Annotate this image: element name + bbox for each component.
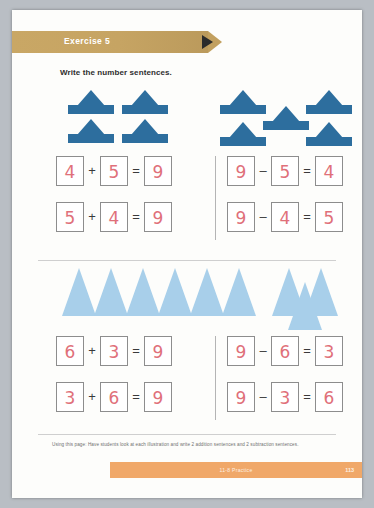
answer-box[interactable]: 5 xyxy=(56,202,84,232)
answer-box[interactable]: 9 xyxy=(144,202,172,232)
worksheet-page: Exercise 5 Write the number sentences. 4… xyxy=(12,10,362,498)
triangle-hat-icon xyxy=(222,268,256,316)
answer-box[interactable]: 9 xyxy=(227,382,255,412)
arrow-tip-icon xyxy=(202,35,213,49)
exercise-title: Exercise 5 xyxy=(64,36,110,46)
triangle-hat-icon xyxy=(288,282,322,330)
equals-sign: = xyxy=(301,336,313,366)
equals-sign: = xyxy=(130,382,142,412)
triangle-hat-icon xyxy=(62,268,96,316)
answer-box[interactable]: 3 xyxy=(100,336,128,366)
equals-sign: = xyxy=(301,156,313,186)
triangle-hat-icon xyxy=(126,268,160,316)
answer-box[interactable]: 4 xyxy=(315,156,343,186)
operator: – xyxy=(257,382,269,412)
answer-box[interactable]: 6 xyxy=(100,382,128,412)
operator: – xyxy=(257,202,269,232)
equals-sign: = xyxy=(301,202,313,232)
operator: + xyxy=(86,382,98,412)
page-footer: 11-8 Practice 113 xyxy=(110,462,362,478)
equals-sign: = xyxy=(130,202,142,232)
answer-box[interactable]: 4 xyxy=(271,202,299,232)
answer-box[interactable]: 6 xyxy=(56,336,84,366)
equals-sign: = xyxy=(130,336,142,366)
exercise-banner: Exercise 5 xyxy=(12,31,362,53)
operator: – xyxy=(257,156,269,186)
operator: + xyxy=(86,156,98,186)
footer-label: 11-8 Practice xyxy=(110,462,362,478)
sailboat-icon xyxy=(68,119,114,143)
answer-box[interactable]: 5 xyxy=(315,202,343,232)
answer-box[interactable]: 9 xyxy=(144,336,172,366)
triangle-hat-icon xyxy=(190,268,224,316)
triangle-hat-icon xyxy=(158,268,192,316)
answer-box[interactable]: 5 xyxy=(271,156,299,186)
note-divider xyxy=(38,434,336,435)
answer-box[interactable]: 3 xyxy=(56,382,84,412)
sailboat-icon xyxy=(220,122,266,146)
answer-box[interactable]: 4 xyxy=(100,202,128,232)
operator: – xyxy=(257,336,269,366)
page-number: 113 xyxy=(345,462,354,478)
answer-box[interactable]: 9 xyxy=(227,156,255,186)
answer-box[interactable]: 4 xyxy=(56,156,84,186)
column-divider xyxy=(215,336,216,420)
equals-sign: = xyxy=(301,382,313,412)
answer-box[interactable]: 3 xyxy=(271,382,299,412)
illustration-bottom xyxy=(56,268,356,320)
answer-box[interactable]: 5 xyxy=(100,156,128,186)
sailboat-icon xyxy=(263,106,309,130)
answer-box[interactable]: 6 xyxy=(315,382,343,412)
sailboat-icon xyxy=(306,122,352,146)
sailboat-icon xyxy=(122,90,168,114)
sailboat-icon xyxy=(122,119,168,143)
illustration-top xyxy=(56,90,356,146)
triangle-hat-icon xyxy=(94,268,128,316)
operator: + xyxy=(86,336,98,366)
answer-box[interactable]: 9 xyxy=(227,336,255,366)
teacher-note: Using this page: Have students look at e… xyxy=(52,442,332,447)
equals-sign: = xyxy=(130,156,142,186)
operator: + xyxy=(86,202,98,232)
section-divider xyxy=(38,260,336,261)
instruction-text: Write the number sentences. xyxy=(60,68,172,77)
answer-box[interactable]: 6 xyxy=(271,336,299,366)
column-divider xyxy=(215,156,216,240)
answer-box[interactable]: 9 xyxy=(227,202,255,232)
sailboat-icon xyxy=(306,90,352,114)
answer-box[interactable]: 9 xyxy=(144,156,172,186)
sailboat-icon xyxy=(68,90,114,114)
answer-box[interactable]: 9 xyxy=(144,382,172,412)
answer-box[interactable]: 3 xyxy=(315,336,343,366)
sailboat-icon xyxy=(220,90,266,114)
